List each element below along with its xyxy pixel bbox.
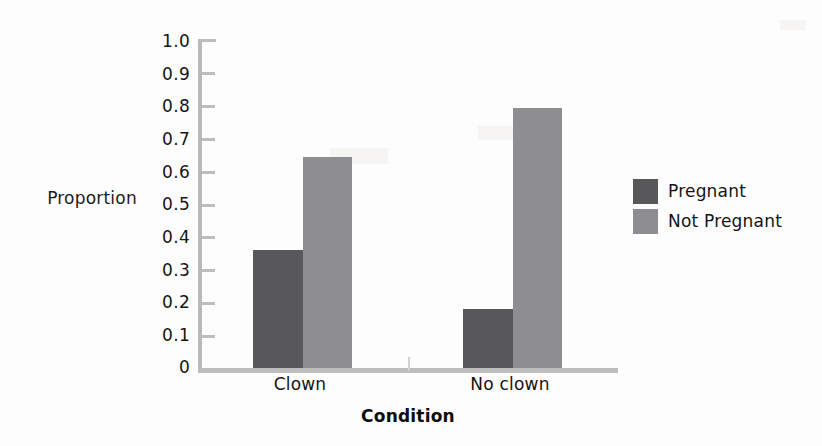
legend: Pregnant Not Pregnant — [633, 176, 782, 236]
y-axis-tick — [202, 335, 215, 338]
y-tick-label: 0.2 — [144, 292, 190, 312]
y-tick-label: 0.6 — [144, 162, 190, 182]
y-tick-label: 0.3 — [144, 260, 190, 280]
y-tick-label: 1.0 — [144, 31, 190, 51]
y-tick-label: 0.4 — [144, 227, 190, 247]
y-axis-tick — [202, 72, 215, 75]
legend-label-not-pregnant: Not Pregnant — [668, 211, 782, 231]
x-axis-group-tick — [408, 357, 410, 371]
y-axis-tick — [202, 204, 215, 207]
y-axis-tick — [202, 39, 215, 42]
y-axis-tick — [202, 138, 215, 141]
bar-clown-pregnant — [253, 250, 303, 368]
legend-swatch-pregnant — [633, 179, 658, 204]
legend-item-pregnant: Pregnant — [633, 176, 782, 206]
y-axis-tick — [202, 269, 215, 272]
legend-swatch-not-pregnant — [633, 209, 658, 234]
y-tick-label: 0.5 — [144, 194, 190, 214]
x-tick-label-no-clown: No clown — [430, 374, 590, 394]
y-axis-tick — [202, 105, 215, 108]
plot-area — [198, 39, 618, 368]
y-tick-label: 0.7 — [144, 129, 190, 149]
x-tick-label-clown: Clown — [220, 374, 380, 394]
legend-label-pregnant: Pregnant — [668, 181, 746, 201]
bar-no-clown-not-pregnant — [513, 108, 562, 368]
y-tick-label: 0 — [144, 357, 190, 377]
x-axis-label: Condition — [328, 406, 488, 426]
legend-item-not-pregnant: Not Pregnant — [633, 206, 782, 236]
y-axis-tick — [202, 302, 215, 305]
y-axis-tick — [202, 236, 215, 239]
scan-artifact — [780, 20, 806, 30]
y-axis-tick — [202, 171, 215, 174]
bar-no-clown-pregnant — [463, 309, 513, 368]
y-axis-label: Proportion — [24, 188, 160, 208]
bar-clown-not-pregnant — [303, 157, 352, 368]
y-tick-label: 0.8 — [144, 96, 190, 116]
y-tick-label: 0.9 — [144, 64, 190, 84]
y-tick-label: 0.1 — [144, 325, 190, 345]
bar-chart-figure: Proportion 1.0 0.9 0.8 0.7 0.6 0.5 0.4 0… — [0, 0, 822, 446]
